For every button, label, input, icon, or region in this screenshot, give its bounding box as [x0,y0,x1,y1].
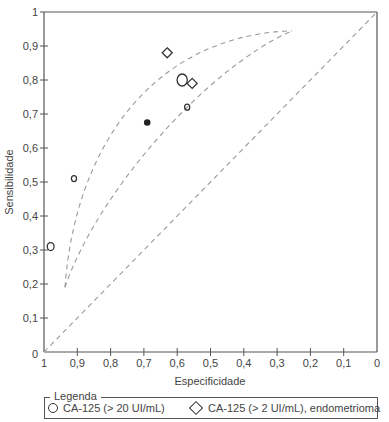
x-tick-label: 0,9 [70,357,85,369]
legend-label-diamond: CA-125 (> 2 UI/mL), endometrioma [208,401,380,415]
summary-point-marker [144,119,151,126]
legend-label-circle: CA-125 (> 20 UI/mL) [63,401,165,415]
x-tick-label: 0,3 [269,357,284,369]
y-tick-label: 0,2 [23,278,38,290]
x-tick-label: 0,8 [103,357,118,369]
x-tick-label: 0,6 [170,357,185,369]
legend-entry-diamond: CA-125 (> 2 UI/mL), endometrioma [189,401,380,415]
y-tick-label: 0,3 [23,244,38,256]
diamond-marker [162,48,172,58]
reference-lines [44,12,377,352]
circle-marker-icon [48,403,58,413]
y-tick-label: 1 [32,6,38,18]
y-tick-label: 0 [32,348,38,360]
circle-marker [177,74,187,86]
x-tick-label: 0,2 [303,357,318,369]
circle-marker [71,176,76,182]
y-tick-label: 0,6 [23,142,38,154]
y-tick-label: 0,5 [23,176,38,188]
x-tick-label: 0,7 [136,357,151,369]
x-tick-label: 0,1 [336,357,351,369]
x-tick-label: 0,4 [236,357,251,369]
y-tick-label: 0,8 [23,74,38,86]
diamond-marker-icon [189,401,203,415]
y-tick-label: 0,1 [23,312,38,324]
y-tick-label: 0,4 [23,210,38,222]
confidence-region-upper-line [65,31,292,288]
axis-ticks: 10,90,80,70,60,50,40,30,20,1000,10,20,30… [23,6,380,369]
x-tick-label: 0,5 [203,357,218,369]
y-tick-label: 0,7 [23,108,38,120]
x-tick-label: 0 [374,357,380,369]
data-markers [47,48,197,251]
legend-entry-circle: CA-125 (> 20 UI/mL) [48,401,165,415]
confidence-region-lower-line [65,31,292,288]
circle-marker [47,243,54,251]
x-tick-label: 1 [41,357,47,369]
roc-chart: 10,90,80,70,60,50,40,30,20,1000,10,20,30… [0,0,389,422]
diamond-marker [187,78,197,88]
chance-diagonal-line [44,12,377,352]
x-axis-label: Especificidade [175,375,246,387]
y-tick-label: 0,9 [23,40,38,52]
y-axis-label: Sensibilidade [3,149,15,214]
